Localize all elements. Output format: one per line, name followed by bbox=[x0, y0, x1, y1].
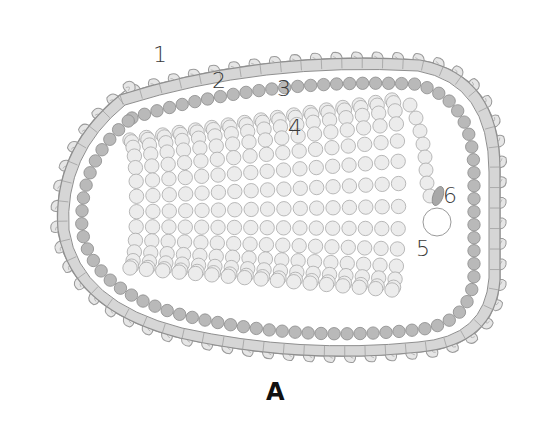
protein-5 bbox=[423, 208, 451, 236]
label-5: 5 bbox=[416, 238, 430, 260]
figure-label: A bbox=[266, 380, 285, 404]
label-4: 4 bbox=[288, 117, 302, 139]
virus-diagram bbox=[0, 0, 553, 423]
label-2: 2 bbox=[212, 70, 226, 92]
label-1: 1 bbox=[153, 44, 167, 66]
label-3: 3 bbox=[277, 78, 291, 100]
label-6: 6 bbox=[443, 185, 457, 207]
